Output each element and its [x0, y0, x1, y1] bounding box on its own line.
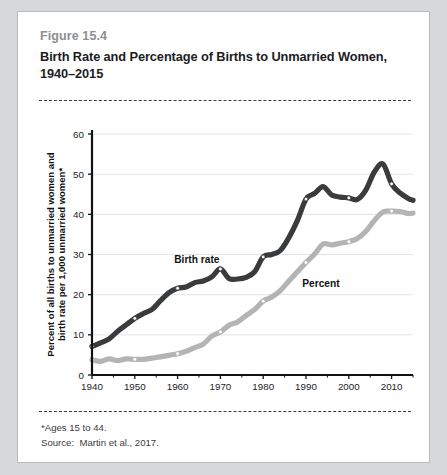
y-tick-label: 20	[73, 289, 84, 300]
x-tick-label: 1980	[252, 381, 274, 392]
x-tick-label: 1940	[81, 381, 103, 392]
figure-card: Figure 15.4 Birth Rate and Percentage of…	[17, 11, 430, 463]
y-axis-label-line2: birth rate per 1,000 unmarried women*	[56, 168, 67, 341]
x-tick-label: 1970	[210, 381, 232, 392]
data-series-layer	[90, 164, 413, 362]
data-point-marker	[133, 357, 137, 361]
data-point-marker	[176, 352, 180, 356]
figure-title-line2: 1940–2015	[40, 66, 103, 81]
footnote-source: Source: Martin et al., 2017.	[41, 435, 159, 450]
divider-top	[39, 100, 411, 101]
series-line	[92, 211, 413, 361]
footnote-asterisk: *Ages 15 to 44.	[41, 420, 159, 435]
line-chart: 0102030405060194019501960197019801990200…	[18, 108, 431, 408]
y-tick-label: 50	[73, 169, 84, 180]
data-point-marker	[176, 286, 180, 290]
chart-plot-area: 0102030405060194019501960197019801990200…	[18, 108, 431, 408]
x-tick-label: 1960	[167, 381, 189, 392]
data-point-marker	[261, 299, 265, 303]
series-birth-rate	[90, 164, 413, 349]
data-point-marker	[304, 197, 308, 201]
y-axis-label: Percent of all births to unmarried women…	[45, 152, 67, 356]
tick-labels-layer: 0102030405060194019501960197019801990200…	[73, 129, 403, 392]
x-tick-label: 2000	[338, 381, 360, 392]
y-axis-label-line1: Percent of all births to unmarried women…	[45, 152, 56, 356]
y-tick-label: 40	[73, 209, 84, 220]
data-point-marker	[390, 209, 394, 213]
footnotes: *Ages 15 to 44. Source: Martin et al., 2…	[41, 420, 159, 450]
figure-title-line1: Birth Rate and Percentage of Births to U…	[40, 49, 387, 64]
y-tick-label: 10	[73, 329, 84, 340]
data-point-marker	[390, 182, 394, 186]
data-point-marker	[133, 316, 137, 320]
series-line	[92, 164, 413, 347]
y-tick-label: 30	[73, 249, 84, 260]
divider-bottom	[39, 411, 411, 412]
x-tick-label: 1950	[124, 381, 146, 392]
x-tick-label: 1990	[295, 381, 317, 392]
data-point-marker	[261, 255, 265, 259]
y-tick-label: 60	[73, 129, 84, 140]
data-point-marker	[304, 261, 308, 265]
y-tick-label: 0	[79, 370, 85, 381]
data-point-marker	[219, 267, 223, 271]
data-point-marker	[347, 240, 351, 244]
figure-number: Figure 15.4	[40, 29, 409, 43]
series-label-birth-rate: Birth rate	[174, 254, 220, 265]
data-point-marker	[347, 196, 351, 200]
data-point-marker	[219, 330, 223, 334]
figure-title: Birth Rate and Percentage of Births to U…	[40, 49, 409, 82]
x-tick-label: 2010	[381, 381, 403, 392]
series-percent	[90, 209, 413, 361]
series-label-percent: Percent	[302, 278, 340, 289]
figure-header: Figure 15.4 Birth Rate and Percentage of…	[18, 12, 429, 82]
